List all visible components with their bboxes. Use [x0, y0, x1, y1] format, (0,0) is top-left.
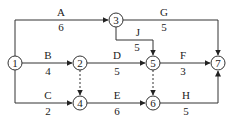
node-4-label: 4 [77, 97, 83, 109]
activity-E-name: E [114, 89, 121, 101]
node-6-label: 6 [150, 97, 156, 109]
activity-J-duration: 5 [134, 41, 140, 53]
node-5-label: 5 [150, 57, 156, 69]
activity-D-duration: 5 [114, 65, 120, 77]
activity-A-duration: 6 [58, 21, 64, 33]
activity-D-name: D [113, 49, 121, 61]
activity-E-duration: 6 [114, 105, 120, 117]
activity-G-name: G [160, 6, 168, 18]
activity-F-duration: 3 [180, 65, 186, 77]
activity-J-name: J [136, 26, 141, 38]
node-1-label: 1 [12, 57, 18, 69]
node-3-label: 3 [113, 14, 119, 26]
activity-B-duration: 4 [45, 65, 51, 77]
activity-H-duration: 5 [183, 105, 189, 117]
node-2-label: 2 [77, 57, 83, 69]
node-7-label: 7 [215, 57, 221, 69]
activity-A-name: A [57, 6, 65, 18]
activity-B-name: B [44, 49, 51, 61]
activity-C-duration: 2 [45, 105, 51, 117]
activity-C-name: C [44, 89, 51, 101]
network-diagram: 1 2 3 4 5 6 7 A 6 B 4 C 2 D 5 E 6 F 3 G … [0, 0, 233, 121]
activity-G-duration: 5 [161, 21, 167, 33]
activity-H-name: H [182, 89, 190, 101]
activity-F-name: F [180, 49, 186, 61]
